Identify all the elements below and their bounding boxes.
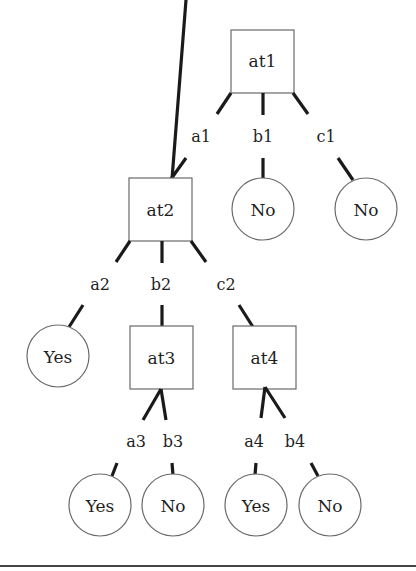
node-label: Yes xyxy=(43,347,73,367)
edge-stub-a4-top xyxy=(261,387,265,418)
edge-stub-a3-top xyxy=(143,389,161,420)
node-label: No xyxy=(353,200,378,220)
decision-tree-diagram: at1 a1 b1 c1 at2 No No a2 b2 c2 Yes at3 xyxy=(0,0,416,571)
node-label: at3 xyxy=(148,348,176,368)
edge-label-b4: b4 xyxy=(285,432,305,451)
node-leaf-b3: No xyxy=(142,474,204,536)
edge-label-a2: a2 xyxy=(90,275,110,294)
node-label: at1 xyxy=(249,51,277,71)
edge-label-a1: a1 xyxy=(191,127,211,146)
node-label: at2 xyxy=(147,200,175,220)
node-label: Yes xyxy=(85,496,115,516)
node-at4: at4 xyxy=(233,326,296,389)
edge-stub-c2-top xyxy=(191,241,206,262)
edge-stub-b4-bottom xyxy=(311,463,318,476)
edge-label-b1: b1 xyxy=(253,127,273,146)
edge-stub-a4-bottom xyxy=(255,463,256,475)
edge-stub-b3-top xyxy=(161,389,166,420)
edge-stub-a2-top xyxy=(116,241,130,262)
edge-stub-c2-bottom xyxy=(239,305,253,327)
node-at3: at3 xyxy=(130,326,193,389)
node-label: No xyxy=(317,496,342,516)
edge-stub-a1-bottom xyxy=(172,0,186,179)
edge-stub-a1-top xyxy=(217,93,231,114)
edge-label-c1: c1 xyxy=(316,127,335,146)
edge-label-a4: a4 xyxy=(244,432,264,451)
node-leaf-a4: Yes xyxy=(225,474,287,536)
edge-stub-b3-bottom xyxy=(172,463,173,475)
edge-stub-b4-top xyxy=(265,387,285,418)
edge-stub-a3-bottom xyxy=(112,463,117,476)
node-leaf-b1: No xyxy=(232,178,294,240)
node-leaf-c1: No xyxy=(335,178,397,240)
edge-stub-c1-bottom xyxy=(338,158,353,180)
node-label: No xyxy=(250,200,275,220)
edge-label-b3: b3 xyxy=(163,432,183,451)
edge-label-a3: a3 xyxy=(126,432,146,451)
node-label: Yes xyxy=(241,496,271,516)
edge-stub-c1-top xyxy=(293,93,308,114)
node-label: No xyxy=(160,496,185,516)
node-leaf-b4: No xyxy=(299,474,361,536)
node-at2: at2 xyxy=(129,178,192,241)
node-leaf-a2: Yes xyxy=(27,325,89,387)
node-leaf-a3: Yes xyxy=(69,474,131,536)
node-at1: at1 xyxy=(231,30,294,93)
edge-stub-a2-bottom xyxy=(69,305,83,327)
edge-label-b2: b2 xyxy=(151,275,171,294)
edge-label-c2: c2 xyxy=(216,275,235,294)
node-label: at4 xyxy=(251,348,279,368)
